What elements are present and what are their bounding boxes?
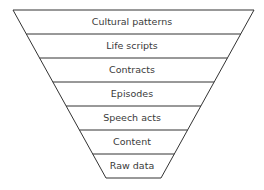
layer-episodes: Episodes: [0, 82, 264, 106]
layer-content: Content: [0, 130, 264, 154]
layer-raw-data: Raw data: [0, 154, 264, 178]
layer-cultural-patterns: Cultural patterns: [0, 10, 264, 34]
layer-life-scripts: Life scripts: [0, 34, 264, 58]
layer-speech-acts: Speech acts: [0, 106, 264, 130]
layer-contracts: Contracts: [0, 58, 264, 82]
